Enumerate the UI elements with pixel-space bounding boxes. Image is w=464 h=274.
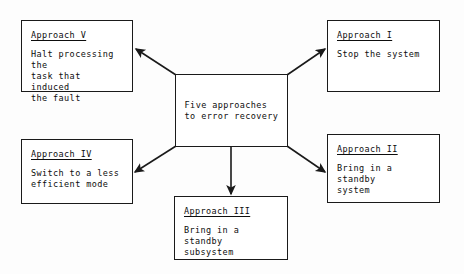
node-approach-iii: Approach III Bring in a standby subsyste…	[174, 196, 288, 260]
arrow-to-approach-i	[287, 49, 325, 75]
node-title-approach-ii: Approach II	[337, 144, 430, 155]
center-node-text: Five approaches to error recovery	[185, 100, 279, 122]
arrow-to-approach-v	[136, 49, 176, 75]
node-title-approach-i: Approach I	[337, 30, 430, 41]
node-body-approach-i: Stop the system	[337, 49, 430, 60]
node-body-approach-ii: Bring in a standby system	[337, 163, 430, 196]
node-approach-ii: Approach II Bring in a standby system	[327, 134, 440, 203]
node-body-approach-iv: Switch to a less efficient mode	[31, 168, 123, 190]
node-body-approach-iii: Bring in a standby subsystem	[184, 225, 278, 258]
node-title-approach-iii: Approach III	[184, 206, 278, 217]
diagram-canvas: Five approaches to error recovery Approa…	[0, 0, 464, 274]
arrow-to-approach-iv	[135, 146, 176, 172]
node-title-approach-iv: Approach IV	[31, 149, 123, 160]
node-title-approach-v: Approach V	[31, 30, 123, 41]
arrow-to-approach-ii	[287, 146, 325, 172]
node-approach-v: Approach V Halt processing the task that…	[21, 20, 133, 92]
node-approach-iv: Approach IV Switch to a less efficient m…	[21, 139, 133, 204]
node-approach-i: Approach I Stop the system	[327, 20, 440, 92]
center-node: Five approaches to error recovery	[175, 74, 288, 147]
node-body-approach-v: Halt processing the task that induced th…	[31, 49, 123, 104]
